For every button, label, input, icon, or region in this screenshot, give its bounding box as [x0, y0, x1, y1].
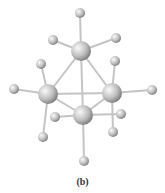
large-atoms — [38, 41, 122, 125]
figure-label: (b) — [0, 176, 165, 187]
bonds — [14, 13, 152, 161]
molecule-diagram — [0, 0, 165, 193]
